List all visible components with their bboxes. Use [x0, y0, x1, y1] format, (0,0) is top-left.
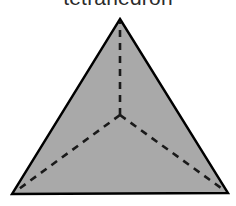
tetrahedron-diagram	[0, 0, 236, 206]
tetrahedron-figure: tetrahedron	[0, 0, 236, 206]
